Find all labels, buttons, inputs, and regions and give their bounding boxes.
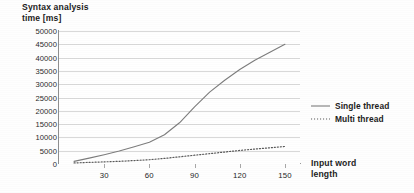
legend-line-swatch-dotted — [311, 115, 330, 123]
chart-legend: Single threadMulti thread — [311, 99, 411, 125]
legend-item[interactable]: Single thread — [311, 99, 411, 112]
x-axis-tick-mark — [285, 164, 286, 168]
x-axis-tick-label: 30 — [100, 171, 109, 180]
x-axis-title: Input word length — [311, 158, 409, 180]
x-axis-tick-label: 90 — [190, 171, 199, 180]
legend-item[interactable]: Multi thread — [311, 112, 411, 125]
x-axis-tick-label: 60 — [145, 171, 154, 180]
x-axis-tick-label: 150 — [278, 171, 292, 180]
x-axis-tick-mark — [240, 164, 241, 168]
x-axis-tick-label: 120 — [233, 171, 247, 180]
chart-container: Syntax analysis time [ms] 50000450004000… — [0, 0, 414, 193]
legend-line-swatch-solid — [311, 102, 330, 110]
x-axis-tick-mark — [104, 164, 105, 168]
x-axis-tick-mark — [195, 164, 196, 168]
x-axis-tick-mark — [149, 164, 150, 168]
legend-item-label: Single thread — [335, 101, 389, 111]
legend-item-label: Multi thread — [335, 114, 384, 124]
